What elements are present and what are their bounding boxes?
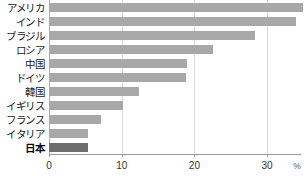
bar (49, 143, 88, 152)
category-label: アメリカ (7, 2, 45, 14)
category-label: 中国 (25, 58, 45, 70)
category-label: 日本 (25, 142, 45, 154)
bar (49, 45, 213, 54)
x-tick-label-30: 30 (262, 160, 273, 171)
category-label: ドイツ (16, 72, 45, 84)
category-label: インド (16, 16, 45, 28)
x-tick-10 (122, 154, 123, 157)
category-label: 韓国 (25, 86, 45, 98)
x-tick-label-20: 20 (189, 160, 200, 171)
bar (49, 115, 101, 124)
category-label: イタリア (6, 128, 45, 140)
plot-area (49, 0, 308, 154)
category-label: イギリス (6, 100, 45, 112)
bar (49, 59, 187, 68)
x-axis-line (49, 154, 301, 155)
bar (49, 87, 139, 96)
bar (49, 101, 123, 110)
category-axis-labels: アメリカインドブラジルロシア中国ドイツ韓国イギリスフランスイタリア日本 (0, 0, 48, 154)
bar (49, 31, 255, 40)
bar (49, 17, 296, 26)
x-tick-label-10: 10 (116, 160, 127, 171)
category-label: ブラジル (6, 30, 45, 42)
bar (49, 73, 186, 82)
x-tick-0 (49, 154, 50, 157)
x-axis-unit-label: % (293, 161, 301, 171)
x-tick-20 (194, 154, 195, 157)
category-label: フランス (6, 114, 45, 126)
bar-chart: アメリカインドブラジルロシア中国ドイツ韓国イギリスフランスイタリア日本 0102… (0, 0, 308, 188)
category-label: ロシア (16, 44, 45, 56)
bar (49, 129, 88, 138)
x-tick-30 (267, 154, 268, 157)
bar (49, 3, 303, 12)
x-tick-label-0: 0 (46, 160, 52, 171)
